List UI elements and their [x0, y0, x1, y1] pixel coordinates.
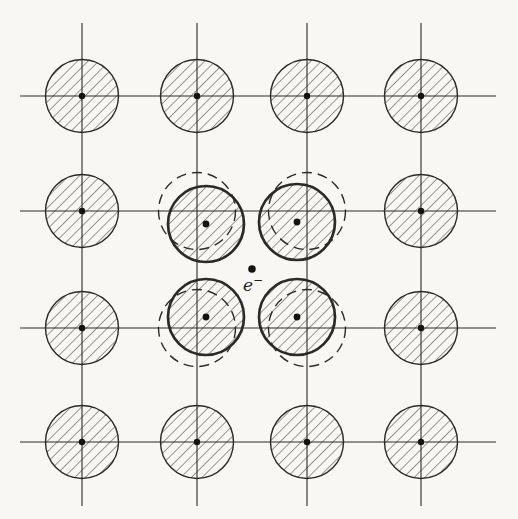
displaced-ion-center-dot: [294, 314, 301, 321]
electron-label-base: e: [243, 275, 253, 295]
electron-dot: [248, 265, 256, 273]
electron-group: e−: [243, 265, 263, 295]
ion-center-dot: [194, 93, 200, 99]
electron-label-superscript: −: [253, 273, 263, 287]
ion-center-dot: [79, 93, 85, 99]
ion-center-dot: [304, 439, 310, 445]
ion-center-dot: [79, 325, 85, 331]
ion-center-dot: [418, 93, 424, 99]
electron-label: e−: [243, 273, 263, 295]
scanned-figure-page: e−: [0, 0, 518, 519]
ion-center-dot: [418, 208, 424, 214]
ion-center-dot: [79, 208, 85, 214]
ion-center-dot: [418, 325, 424, 331]
displaced-ion-center-dot: [203, 314, 210, 321]
polaron-lattice-diagram: e−: [0, 0, 518, 519]
displaced-ion-center-dot: [294, 219, 301, 226]
ion-center-dot: [79, 439, 85, 445]
displaced-ion-center-dot: [203, 221, 210, 228]
ion-center-dot: [194, 439, 200, 445]
ion-center-dot: [418, 439, 424, 445]
ion-center-dot: [304, 93, 310, 99]
